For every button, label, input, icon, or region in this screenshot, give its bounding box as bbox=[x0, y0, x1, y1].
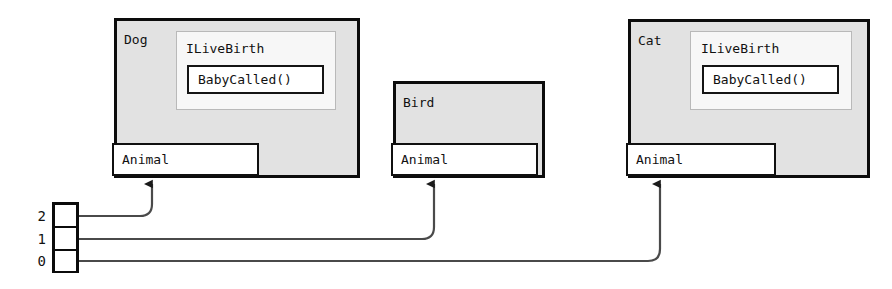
base-class-label-cat-animal: Animal bbox=[628, 152, 683, 167]
method-label-dog-babycalled: BabyCalled() bbox=[189, 72, 292, 87]
interface-title-cat-ilivebirth: ILiveBirth bbox=[701, 41, 779, 56]
base-class-label-dog-animal: Animal bbox=[114, 152, 169, 167]
object-title-cat: Cat bbox=[638, 33, 661, 48]
method-label-cat-babycalled: BabyCalled() bbox=[704, 72, 807, 87]
object-title-dog: Dog bbox=[124, 32, 147, 47]
array-index-label-0: 0 bbox=[26, 253, 46, 269]
array-cell-2[interactable] bbox=[55, 205, 76, 227]
method-box-dog-babycalled[interactable]: BabyCalled() bbox=[187, 65, 324, 94]
wire-index0-to-cat bbox=[79, 184, 660, 261]
diagram-canvas: Dog ILiveBirth BabyCalled() Animal Bird … bbox=[0, 0, 892, 289]
base-class-box-dog-animal[interactable]: Animal bbox=[112, 143, 259, 176]
wire-index1-to-bird bbox=[79, 184, 434, 239]
array-cell-0[interactable] bbox=[55, 251, 76, 271]
interface-title-dog-ilivebirth: ILiveBirth bbox=[186, 41, 264, 56]
base-class-box-cat-animal[interactable]: Animal bbox=[626, 143, 776, 176]
array-index-label-1: 1 bbox=[26, 231, 46, 247]
base-class-label-bird-animal: Animal bbox=[393, 152, 448, 167]
wire-index2-to-dog bbox=[79, 184, 152, 216]
object-title-bird: Bird bbox=[403, 95, 434, 110]
method-box-cat-babycalled[interactable]: BabyCalled() bbox=[702, 65, 839, 94]
base-class-box-bird-animal[interactable]: Animal bbox=[391, 143, 538, 176]
array-index-label-2: 2 bbox=[26, 208, 46, 224]
array-cell-1[interactable] bbox=[55, 228, 76, 250]
